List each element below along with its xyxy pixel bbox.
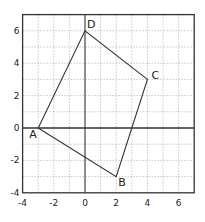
- plot-frame: [23, 15, 195, 193]
- x-tick-label: 4: [145, 198, 151, 208]
- y-tick-label: 6: [14, 26, 20, 36]
- vertex-label-b: B: [118, 176, 126, 189]
- quadrilateral-abcd: [38, 31, 147, 177]
- vertex-label-a: A: [29, 128, 37, 141]
- x-tick-label: -4: [18, 198, 27, 208]
- axes: [23, 15, 195, 193]
- vertex-label-c: C: [151, 69, 159, 82]
- vertex-label-d: D: [87, 18, 95, 31]
- x-axis-tick-labels: -4-20246: [18, 198, 182, 208]
- y-tick-label: -4: [11, 188, 20, 198]
- x-tick-label: 6: [176, 198, 182, 208]
- y-tick-label: 2: [14, 91, 20, 101]
- coordinate-plane: -4-20246 -4-20246 ABCD: [0, 0, 205, 222]
- y-tick-label: 0: [14, 123, 20, 133]
- x-tick-label: -2: [49, 198, 58, 208]
- y-tick-label: -2: [11, 155, 20, 165]
- grid-lines: [23, 15, 195, 193]
- y-tick-label: 4: [14, 58, 20, 68]
- y-axis-tick-labels: -4-20246: [11, 26, 20, 198]
- x-tick-label: 2: [113, 198, 119, 208]
- x-tick-label: 0: [82, 198, 88, 208]
